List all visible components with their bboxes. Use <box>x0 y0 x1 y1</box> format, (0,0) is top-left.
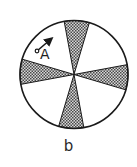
sector-right <box>74 65 128 90</box>
sector-bottom <box>59 75 84 129</box>
sector-top <box>64 20 89 74</box>
sector-left <box>20 59 74 84</box>
figure-caption: b <box>0 139 137 154</box>
arrow-origin-dot <box>35 49 39 53</box>
point-label-a: A <box>40 47 50 61</box>
